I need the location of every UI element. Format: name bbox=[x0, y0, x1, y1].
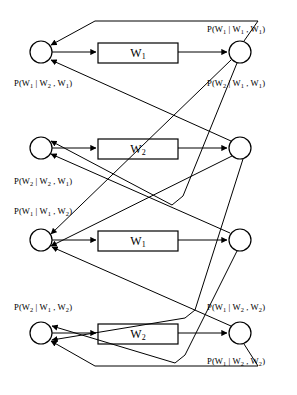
prob-label-p-w1-given-w1-w2: P(W1 | W1 , W2) bbox=[14, 206, 72, 216]
state-node-right-row-2 bbox=[229, 137, 251, 159]
state-node-left-row-4 bbox=[30, 322, 52, 344]
state-node-right-row-3 bbox=[229, 229, 251, 251]
state-node-left-row-1 bbox=[30, 41, 52, 63]
edge-cross-right1-to-left3 bbox=[51, 60, 231, 234]
trellis-diagram: W1 W2 W1 W2 bbox=[0, 0, 297, 395]
state-node-right-row-1 bbox=[229, 41, 251, 63]
prob-label-p-w2-given-w1-w1: P(W2 | W1 , W1) bbox=[207, 78, 265, 88]
state-node-right-row-4 bbox=[229, 322, 251, 344]
prob-label-p-w2-given-w2-w1: P(W2 | W2 , W1) bbox=[14, 176, 72, 186]
state-node-left-row-3 bbox=[30, 229, 52, 251]
prob-label-p-w2-given-w1-w2: P(W2 | W1 , W2) bbox=[14, 302, 72, 312]
state-node-left-row-2 bbox=[30, 137, 52, 159]
trellis-canvas: W1 W2 W1 W2 bbox=[0, 0, 297, 395]
prob-label-p-w1-given-w2-w1: P(W1 | W2 , W1) bbox=[14, 78, 72, 88]
prob-label-p-w1-given-w1-w1: P(W1 | W1 , W1) bbox=[207, 24, 265, 34]
edge-cross-right3-to-left2 bbox=[51, 154, 230, 233]
row-1-group: W1 bbox=[30, 41, 251, 63]
edge-cross-right4-to-left3 bbox=[52, 247, 231, 326]
prob-label-p-w1-given-w2-w2-lower: P(W1 | W2 , W2) bbox=[207, 356, 265, 366]
prob-label-p-w1-given-w2-w2-upper: P(W1 | W2 , W2) bbox=[207, 302, 265, 312]
edge-cross-right2-to-left1 bbox=[51, 60, 231, 141]
